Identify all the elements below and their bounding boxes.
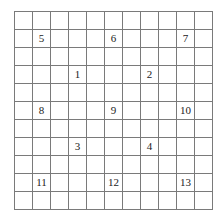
grid-cell [159,30,177,48]
grid-cell [87,156,105,174]
cell-number-label: 11 [36,177,47,188]
grid-cell: 9 [105,102,123,120]
grid-cell [123,120,141,138]
cell-number-label: 9 [111,105,117,116]
grid-cell [177,120,195,138]
grid-cell [123,174,141,192]
grid-cell [123,102,141,120]
grid-cell [159,102,177,120]
grid-cell [195,48,213,66]
grid-cell: 8 [33,102,51,120]
cell-number-label: 10 [180,105,191,116]
cell-number-label: 13 [180,177,191,188]
grid-cell [69,84,87,102]
grid-cell [51,30,69,48]
grid-cell [159,120,177,138]
grid-cell [69,12,87,30]
grid-cell [141,12,159,30]
grid-cell [15,30,33,48]
grid-cell [51,156,69,174]
grid-cell [195,156,213,174]
grid-cell [195,30,213,48]
grid-cell [69,120,87,138]
cell-number-label: 3 [75,141,81,152]
grid-cell [87,48,105,66]
grid-cell [195,138,213,156]
grid-cell [69,192,87,210]
grid-cell: 4 [141,138,159,156]
cell-number-label: 6 [111,33,117,44]
grid-cell [141,30,159,48]
grid-cell [141,84,159,102]
grid-cell: 10 [177,102,195,120]
grid-cell [15,12,33,30]
grid-cell [15,120,33,138]
grid-cell [123,156,141,174]
grid-cell [51,174,69,192]
grid-cell [159,156,177,174]
grid-cell [33,12,51,30]
grid-cell [15,138,33,156]
grid-cell: 5 [33,30,51,48]
grid-cell: 6 [105,30,123,48]
grid-cell [159,48,177,66]
grid-cell [51,120,69,138]
grid-cell [51,102,69,120]
grid-cell [87,138,105,156]
grid-cell [159,192,177,210]
grid-cell [87,30,105,48]
number-grid: 56712891034111213 [14,11,213,210]
grid-cell [123,192,141,210]
grid-cell [87,192,105,210]
grid-cell [195,12,213,30]
grid-cell [51,48,69,66]
grid-cell [195,174,213,192]
cell-number-label: 4 [147,141,153,152]
grid-cell [105,192,123,210]
grid-cell [15,48,33,66]
grid-cell [141,192,159,210]
grid-cell: 1 [69,66,87,84]
grid-cell [177,84,195,102]
grid-cell [15,102,33,120]
grid-cell [123,48,141,66]
cell-number-label: 5 [39,33,45,44]
grid-cell: 13 [177,174,195,192]
grid-cell [159,12,177,30]
cell-number-label: 2 [147,69,153,80]
grid-cell [33,138,51,156]
grid-cell: 11 [33,174,51,192]
grid-cell [15,192,33,210]
grid-cell [87,174,105,192]
grid-cell: 3 [69,138,87,156]
grid-cell [159,174,177,192]
grid-cell [141,120,159,138]
grid-cell [123,138,141,156]
grid-cell [87,66,105,84]
grid-cell [177,138,195,156]
grid-cell [123,30,141,48]
grid-cell [33,120,51,138]
grid-cell [69,30,87,48]
grid-cell [105,12,123,30]
grid-cell [51,138,69,156]
cell-number-label: 1 [75,69,81,80]
grid-cell [69,174,87,192]
grid-cell [87,102,105,120]
grid-cell [15,156,33,174]
grid-cell [141,156,159,174]
grid-cell [87,84,105,102]
grid-cell [123,84,141,102]
grid-cell: 2 [141,66,159,84]
grid-cell [177,156,195,174]
grid-cell [33,48,51,66]
grid-cell [15,66,33,84]
grid-cell [105,48,123,66]
grid-cell [177,192,195,210]
grid-cell [51,192,69,210]
grid-cell [141,48,159,66]
grid-cell [177,66,195,84]
grid-cell [105,84,123,102]
grid-cell [159,66,177,84]
grid-cell [33,66,51,84]
